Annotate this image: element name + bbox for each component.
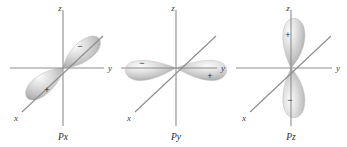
axis-label-y-px: y: [107, 63, 112, 73]
axis-label-z-py: z: [170, 3, 175, 13]
axis-label-y-py: y: [220, 63, 225, 73]
lobe-plus-py: [176, 60, 227, 80]
orbital-diagram-pz: z y x + − Pz: [228, 0, 344, 147]
orbital-name-py: Py: [170, 132, 182, 142]
axis-label-y-pz: y: [335, 63, 340, 73]
sign-label-plus-py: +: [207, 71, 212, 81]
p-orbital-figure: z y x − + Px: [0, 0, 347, 147]
lobe-minus-py: [125, 60, 176, 80]
sign-label-minus-py: −: [139, 58, 144, 68]
axis-label-x-pz: x: [241, 113, 246, 123]
orbital-panel-px: z y x − + Px: [0, 0, 116, 147]
lobe-minus-pz: [283, 68, 305, 118]
orbital-diagram-py: z y x − + Py: [113, 0, 229, 147]
axis-label-x-px: x: [13, 113, 18, 123]
orbital-name-px: Px: [57, 132, 69, 142]
axis-label-x-py: x: [126, 113, 131, 123]
orbital-panel-pz: z y x + − Pz: [228, 0, 344, 147]
sign-label-minus-px: −: [77, 41, 82, 51]
orbital-name-pz: Pz: [285, 132, 296, 142]
axis-label-z-pz: z: [285, 3, 290, 13]
orbital-panel-py: z y x − + Py: [113, 0, 229, 147]
axis-label-z-px: z: [57, 3, 62, 13]
lobe-plus-pz: [283, 18, 305, 68]
sign-label-minus-pz: −: [287, 95, 292, 105]
sign-label-plus-px: +: [44, 85, 49, 95]
sign-label-plus-pz: +: [285, 30, 290, 40]
orbital-diagram-px: z y x − + Px: [0, 0, 116, 147]
